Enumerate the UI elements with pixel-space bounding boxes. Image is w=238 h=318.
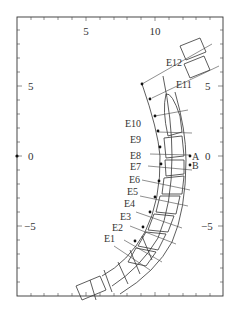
label-e2: E2 xyxy=(112,222,123,233)
label-e6: E6 xyxy=(129,174,140,185)
right-ticks xyxy=(218,30,223,282)
origin-marker xyxy=(15,154,18,157)
cochlear-electrode-diagram: 5 10 5 0 −5 5 0 −5 xyxy=(0,0,238,318)
label-e1: E1 xyxy=(104,233,115,244)
point-a-marker xyxy=(189,155,192,158)
y-left-tick-5: 5 xyxy=(28,80,34,92)
label-e3: E3 xyxy=(120,211,131,222)
y-left-tick-0: 0 xyxy=(28,150,34,162)
label-e11: E11 xyxy=(176,79,192,90)
label-e7: E7 xyxy=(130,161,141,172)
y-right-tick-m5: −5 xyxy=(201,220,213,232)
label-e12: E12 xyxy=(166,57,182,68)
label-e4: E4 xyxy=(124,198,135,209)
label-e8: E8 xyxy=(130,150,141,161)
y-right-tick-5: 5 xyxy=(205,80,211,92)
point-b-marker xyxy=(189,164,192,167)
y-right-tick-0: 0 xyxy=(205,150,211,162)
point-b-label: B xyxy=(192,160,199,171)
y-left-tick-m5: −5 xyxy=(24,220,36,232)
x-tick-10: 10 xyxy=(150,25,162,37)
label-e9: E9 xyxy=(130,134,141,145)
label-e10: E10 xyxy=(125,118,141,129)
x-tick-5: 5 xyxy=(83,25,89,37)
cochlea-outline xyxy=(76,38,210,300)
top-ticks xyxy=(31,17,210,21)
label-e5: E5 xyxy=(127,186,138,197)
